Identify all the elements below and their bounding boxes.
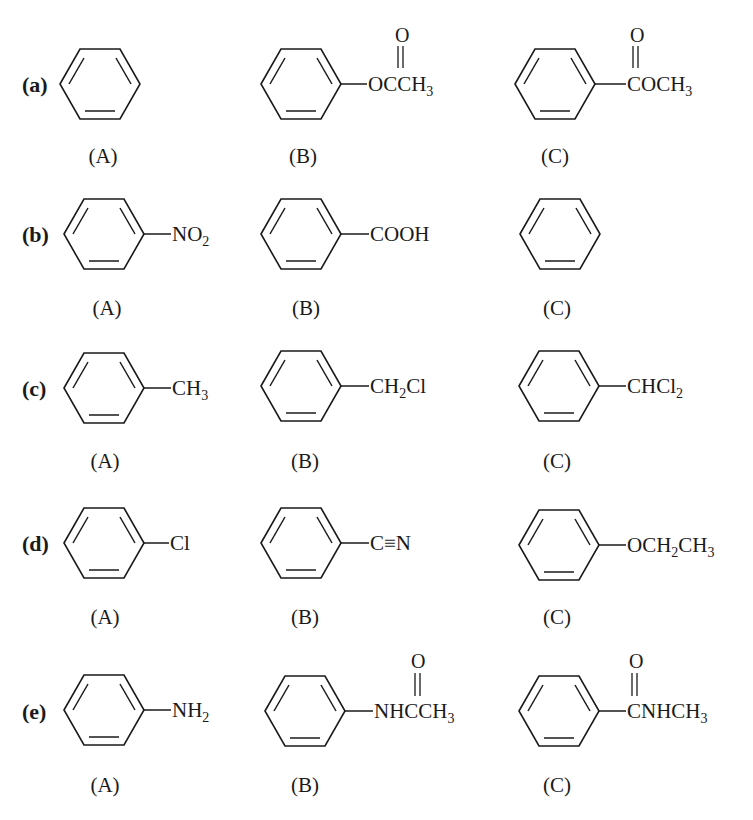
svg-text:OCCH3: OCCH3	[368, 72, 433, 99]
caption-a-A: (A)	[88, 144, 117, 169]
molecule-b-B-benzoic-acid: COOH	[256, 194, 456, 274]
svg-text:O: O	[411, 650, 425, 672]
caption-e-A: (A)	[90, 773, 119, 798]
caption-c-B: (B)	[291, 449, 319, 474]
svg-text:Cl: Cl	[170, 531, 190, 555]
caption-a-B: (B)	[289, 144, 317, 169]
caption-e-C: (C)	[543, 773, 571, 798]
row-label-b: (b)	[22, 222, 49, 248]
svg-text:CNHCH3: CNHCH3	[627, 699, 708, 726]
molecule-d-A-chlorobenzene: Cl	[59, 503, 209, 583]
molecule-e-C-n-methylbenzamide: O CNHCH3	[514, 646, 744, 756]
caption-b-C: (C)	[543, 296, 571, 321]
svg-text:O: O	[630, 24, 644, 46]
svg-text:COOH: COOH	[370, 222, 430, 246]
caption-b-B: (B)	[292, 296, 320, 321]
molecule-a-C-methyl-benzoate: O COCH3	[510, 20, 740, 130]
svg-text:NO2: NO2	[172, 222, 209, 249]
molecule-e-B-acetanilide: O NHCCH3	[260, 646, 485, 756]
row-label-c: (c)	[22, 376, 46, 402]
row-label-e: (e)	[22, 699, 46, 725]
svg-text:CHCl2: CHCl2	[627, 374, 683, 401]
svg-text:C≡N: C≡N	[370, 531, 411, 555]
svg-text:O: O	[629, 650, 643, 672]
svg-text:CH3: CH3	[172, 376, 208, 403]
row-label-a: (a)	[22, 72, 48, 98]
molecule-d-C-ethoxybenzene: OCH2CH3	[514, 505, 749, 585]
svg-text:O: O	[395, 24, 409, 46]
caption-d-C: (C)	[543, 605, 571, 630]
caption-c-A: (A)	[90, 449, 119, 474]
molecule-e-A-aniline: NH2	[59, 670, 229, 750]
caption-d-A: (A)	[90, 605, 119, 630]
caption-e-B: (B)	[291, 773, 319, 798]
molecule-b-C-benzene	[515, 194, 605, 274]
row-label-d: (d)	[22, 531, 49, 557]
caption-a-C: (C)	[541, 144, 569, 169]
molecule-c-C-benzal-chloride: CHCl2	[514, 346, 724, 426]
caption-c-C: (C)	[543, 449, 571, 474]
caption-d-B: (B)	[291, 605, 319, 630]
svg-text:COCH3: COCH3	[627, 72, 692, 99]
molecule-c-B-benzyl-chloride: CH2Cl	[256, 346, 456, 426]
svg-text:NH2: NH2	[172, 698, 209, 725]
svg-text:NHCCH3: NHCCH3	[374, 699, 455, 726]
svg-text:CH2Cl: CH2Cl	[370, 374, 426, 401]
molecule-a-B-phenyl-acetate: O OCCH3	[256, 20, 466, 130]
svg-text:OCH2CH3: OCH2CH3	[627, 533, 715, 560]
molecule-b-A-nitrobenzene: NO2	[59, 194, 229, 274]
caption-b-A: (A)	[92, 296, 121, 321]
molecule-d-B-benzonitrile: C≡N	[256, 503, 436, 583]
molecule-a-A-benzene	[55, 44, 145, 124]
molecule-c-A-toluene: CH3	[59, 348, 229, 428]
